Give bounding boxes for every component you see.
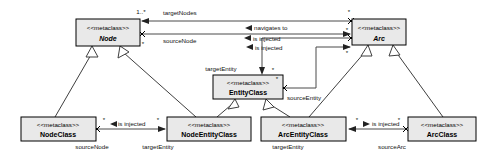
mult-arc-inj: * bbox=[346, 49, 349, 56]
label-is-injected-left: is injected bbox=[118, 120, 146, 127]
mult-nodeentityclass: * bbox=[157, 116, 160, 123]
generalization-nodeclass-node bbox=[55, 46, 98, 117]
diagram-canvas: <<metaclass>> Node <<metaclass>> Arc <<m… bbox=[0, 0, 484, 160]
class-nodeclass-name: NodeClass bbox=[40, 131, 76, 138]
mult-targetnodes: 1..* bbox=[136, 8, 146, 15]
mult-nodeclass: * bbox=[103, 116, 106, 123]
role-targetentity-center: targetEntity bbox=[205, 65, 237, 72]
class-entityclass-name: EntityClass bbox=[229, 89, 267, 97]
role-targetentity-left: targetEntity bbox=[142, 143, 174, 150]
generalization-arcentityclass-arc bbox=[309, 45, 372, 117]
label-is-injected-1: is injected bbox=[253, 35, 281, 42]
class-arcclass-name: ArcClass bbox=[427, 131, 457, 138]
class-arcclass-stereotype: <<metaclass>> bbox=[421, 121, 464, 128]
generalization-nodeentityclass-entityclass bbox=[217, 99, 239, 117]
mult-arc-nav: * bbox=[346, 26, 349, 33]
class-arcentityclass-stereotype: <<metaclass>> bbox=[282, 121, 325, 128]
role-targetentity-right: targetEntity bbox=[272, 143, 304, 150]
class-nodeentityclass-name: NodeEntityClass bbox=[181, 131, 237, 139]
class-arc[interactable]: <<metaclass>> Arc bbox=[352, 19, 406, 45]
class-node[interactable]: <<metaclass>> Node bbox=[76, 19, 140, 46]
label-navigates-to: navigates to bbox=[254, 24, 288, 31]
class-entityclass[interactable]: <<metaclass>> EntityClass bbox=[213, 75, 283, 99]
class-nodeclass-stereotype: <<metaclass>> bbox=[37, 121, 80, 128]
mult-arc-top: * bbox=[348, 8, 351, 15]
mult-sourcenode-top: * bbox=[142, 40, 145, 47]
generalization-arcentityclass-entityclass bbox=[263, 99, 290, 117]
uml-class-diagram: <<metaclass>> Node <<metaclass>> Arc <<m… bbox=[0, 0, 484, 160]
class-nodeclass[interactable]: <<metaclass>> NodeClass bbox=[21, 117, 96, 141]
generalization-nodeentityclass-node bbox=[118, 46, 196, 117]
class-arc-name: Arc bbox=[372, 35, 385, 42]
label-is-injected-2: is injected bbox=[255, 44, 283, 51]
class-entityclass-stereotype: <<metaclass>> bbox=[227, 79, 270, 86]
association-navigates-to bbox=[139, 25, 351, 37]
class-arcclass[interactable]: <<metaclass>> ArcClass bbox=[408, 117, 476, 141]
role-sourcenode-top: sourceNode bbox=[163, 37, 197, 44]
class-arcentityclass[interactable]: <<metaclass>> ArcEntityClass bbox=[261, 117, 346, 141]
mult-arcentityclass: * bbox=[356, 116, 359, 123]
association-targetNodes bbox=[141, 18, 354, 24]
class-nodeentityclass-stereotype: <<metaclass>> bbox=[188, 121, 231, 128]
class-arcentityclass-name: ArcEntityClass bbox=[278, 131, 328, 139]
role-sourcenode-bottom: sourceNode bbox=[75, 143, 109, 150]
label-is-injected-right: is injected bbox=[372, 120, 400, 127]
mult-arcclass: * bbox=[398, 116, 401, 123]
role-targetnodes: targetNodes bbox=[163, 9, 197, 16]
generalization-arcclass-arc bbox=[389, 45, 443, 117]
class-node-stereotype: <<metaclass>> bbox=[87, 24, 130, 31]
role-sourceentity: sourceEntity bbox=[287, 94, 322, 101]
mult-entity-target: * bbox=[272, 66, 275, 73]
class-arc-stereotype: <<metaclass>> bbox=[358, 24, 401, 31]
class-node-name: Node bbox=[99, 35, 117, 42]
class-nodeentityclass[interactable]: <<metaclass>> NodeEntityClass bbox=[167, 117, 251, 141]
role-sourcearc: sourceArc bbox=[378, 143, 406, 150]
